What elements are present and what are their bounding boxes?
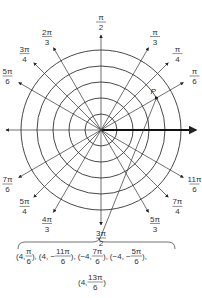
ray-2pi-over-3 (54, 48, 102, 130)
coord-denominator: 6 (26, 257, 31, 266)
angle-label-denominator: 6 (5, 77, 10, 86)
angle-label: 4π3 (42, 215, 52, 234)
ray-5pi-over-3 (101, 130, 149, 212)
angle-label-numerator: π (152, 28, 158, 37)
coord-suffix: ), (32, 252, 37, 261)
coord-prefix: (4, (78, 278, 87, 287)
angle-label: π3 (150, 28, 160, 47)
coord-suffix: ), (142, 252, 147, 261)
angle-label: 5π6 (3, 67, 13, 86)
ray-pi-over-4 (101, 63, 168, 130)
caption-line1-coord: (4, π6), (16, 247, 37, 266)
ray-pi-over-3 (101, 48, 149, 130)
ray-7pi-over-4 (101, 130, 168, 197)
angle-label-numerator: π (192, 67, 198, 76)
angle-label-numerator: 11π (188, 175, 202, 184)
ray-7pi-over-6 (19, 130, 101, 178)
angle-label-numerator: 5π (150, 215, 160, 224)
angle-label-numerator: 5π (20, 197, 30, 206)
angle-label-numerator: 3π (96, 229, 106, 238)
angle-label-numerator: π (98, 13, 104, 22)
angle-label-denominator: 4 (175, 55, 180, 64)
polar-diagram: 0π6π4π3π22π33π45π6π7π65π44π33π25π37π411π… (0, 0, 202, 298)
angle-label-denominator: 4 (22, 55, 27, 64)
angle-label-denominator: 3 (153, 38, 158, 47)
leader-line (99, 98, 156, 241)
ray-pi-over-6 (101, 83, 183, 131)
angle-label-numerator: 2π (42, 28, 52, 37)
angle-label-denominator: 6 (192, 77, 197, 86)
coord-numerator: 5π (131, 247, 141, 256)
ray-5pi-over-6 (19, 83, 101, 131)
caption-line1-coord: (−4, −5π6), (110, 247, 147, 266)
angle-label: π4 (172, 45, 182, 64)
coord-suffix: ), (103, 252, 108, 261)
caption-line1-coord: (−4, 7π6), (78, 247, 108, 266)
point-p-label: P (150, 87, 156, 96)
ray-4pi-over-3 (54, 130, 102, 212)
coord-numerator: 7π (92, 247, 102, 256)
angle-label: 5π3 (150, 215, 160, 234)
ray-3pi-over-4 (34, 63, 101, 130)
angle-label-numerator: 7π (172, 197, 182, 206)
caption-line2-coord: (4, 13π6) (78, 273, 106, 292)
angle-label: 11π6 (188, 175, 202, 194)
angle-label: 5π4 (20, 197, 30, 216)
angle-label-denominator: 3 (45, 225, 50, 234)
angle-label: 3π2 (96, 229, 106, 248)
coord-suffix: ), (71, 252, 76, 261)
angle-rays (6, 35, 196, 225)
coord-prefix: (−4, − (110, 252, 131, 261)
angle-label-numerator: 7π (3, 175, 13, 184)
angle-label-numerator: 5π (3, 67, 13, 76)
coord-suffix: ) (103, 278, 106, 287)
coord-prefix: (4, − (39, 252, 56, 261)
angle-label: 7π6 (3, 175, 13, 194)
coord-denominator: 6 (134, 257, 139, 266)
caption-group: (4, π6),(4, −11π6),(−4, 7π6),(−4, −5π6),… (16, 238, 175, 292)
coord-numerator: 13π (88, 273, 103, 282)
angle-label: 3π4 (20, 45, 30, 64)
angle-label-denominator: 6 (192, 185, 197, 194)
coord-denominator: 6 (95, 257, 100, 266)
coord-denominator: 6 (61, 257, 66, 266)
angle-label: 2π3 (42, 28, 52, 47)
angle-label: 7π4 (172, 197, 182, 216)
coord-prefix: (−4, (78, 252, 92, 261)
angle-label-numerator: 4π (42, 215, 52, 224)
ray-11pi-over-6 (101, 130, 183, 178)
angle-label-denominator: 4 (22, 207, 27, 216)
coord-denominator: 6 (93, 283, 98, 292)
angle-label-denominator: 6 (5, 185, 10, 194)
angle-label: π6 (190, 67, 200, 86)
angle-label: π2 (96, 13, 106, 32)
angle-label-denominator: 2 (99, 23, 104, 32)
ray-5pi-over-4 (34, 130, 101, 197)
angle-label-numerator: 3π (20, 45, 30, 54)
coord-numerator: 11π (56, 247, 70, 256)
angle-label-denominator: 3 (153, 225, 158, 234)
coord-prefix: (4, (16, 252, 25, 261)
angle-label-denominator: 4 (175, 207, 180, 216)
angle-label-numerator: π (175, 45, 181, 54)
caption-line1-coord: (4, −11π6), (39, 247, 76, 266)
angle-label-denominator: 3 (45, 38, 50, 47)
